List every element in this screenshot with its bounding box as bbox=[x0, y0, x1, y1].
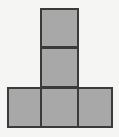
square-middle: Middle square bbox=[40, 47, 79, 88]
square-base-left-label: Bottom-left square bbox=[8, 88, 9, 89]
square-base-left: Bottom-left square bbox=[7, 87, 42, 128]
square-base-center-label: Bottom-center square bbox=[41, 88, 42, 89]
square-base-center: Bottom-center square bbox=[40, 87, 79, 128]
square-base-right-label: Bottom-right square bbox=[78, 88, 79, 89]
square-middle-label: Middle square bbox=[41, 48, 42, 49]
square-top: Top square bbox=[40, 8, 79, 48]
square-top-label: Top square bbox=[41, 9, 42, 10]
square-base-right: Bottom-right square bbox=[77, 87, 113, 128]
polyomino-figure: Top square Middle square Bottom-left squ… bbox=[0, 0, 119, 137]
